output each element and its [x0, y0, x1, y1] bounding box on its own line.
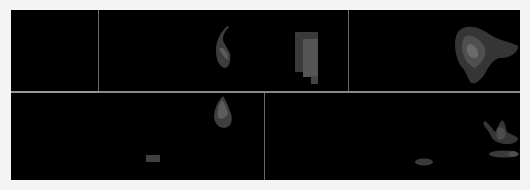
- elongated-ellipse-blob-highlight: [508, 151, 518, 157]
- image-grid: [11, 10, 520, 180]
- v-shaped-blob: [484, 120, 519, 144]
- stepped-rectangle-blob: [295, 32, 318, 84]
- hook-blob: [216, 26, 230, 68]
- small-ellipse-blob: [415, 159, 433, 166]
- teardrop-blob: [214, 96, 232, 128]
- blob-overlay: [11, 10, 520, 180]
- small-rectangle-blob: [146, 155, 160, 162]
- large-irregular-blob: [455, 27, 518, 83]
